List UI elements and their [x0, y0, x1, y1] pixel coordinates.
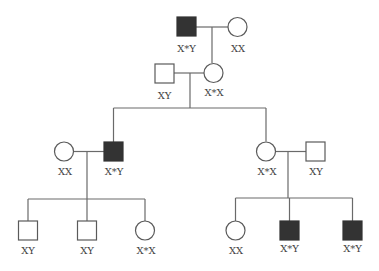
- g4-child5-genotype: X*Y: [280, 243, 299, 254]
- g4-child4-genotype: XX: [229, 245, 244, 256]
- g3-right-female-genotype: X*X: [257, 166, 277, 177]
- g3-right-male: [306, 142, 325, 161]
- g4-child3-genotype: X*X: [136, 245, 156, 256]
- g1-male-genotype: X*Y: [177, 43, 196, 54]
- g2-male: [155, 64, 174, 83]
- pedigree-svg: X*Y XX XY X*X XX X*Y X*X XY: [0, 0, 379, 271]
- g4-child3-female: [136, 221, 155, 240]
- g3-right-male-genotype: XY: [309, 166, 323, 177]
- g4-child1-genotype: XY: [21, 245, 35, 256]
- g1-female: [228, 18, 247, 37]
- g3-right-female: [257, 142, 276, 161]
- g2-female-genotype: X*X: [204, 87, 224, 98]
- g2-male-genotype: XY: [158, 90, 172, 101]
- g1-affected-male: [177, 17, 196, 36]
- g4-child2-male: [78, 221, 97, 240]
- g3-left-female: [55, 142, 74, 161]
- g1-female-genotype: XX: [231, 43, 246, 54]
- g2-female: [204, 64, 223, 83]
- g3-left-female-genotype: XX: [58, 166, 73, 177]
- g3-left-affected-male: [104, 142, 123, 161]
- g3-left-male-genotype: X*Y: [105, 166, 124, 177]
- g4-child2-genotype: XY: [80, 245, 94, 256]
- g4-child6-genotype: X*Y: [343, 243, 362, 254]
- g4-child1-male: [19, 221, 38, 240]
- g4-child6-affected-male: [343, 221, 362, 240]
- g4-child5-affected-male: [280, 221, 299, 240]
- pedigree-diagram: X*Y XX XY X*X XX X*Y X*X XY: [0, 0, 379, 271]
- g4-child4-female: [226, 221, 245, 240]
